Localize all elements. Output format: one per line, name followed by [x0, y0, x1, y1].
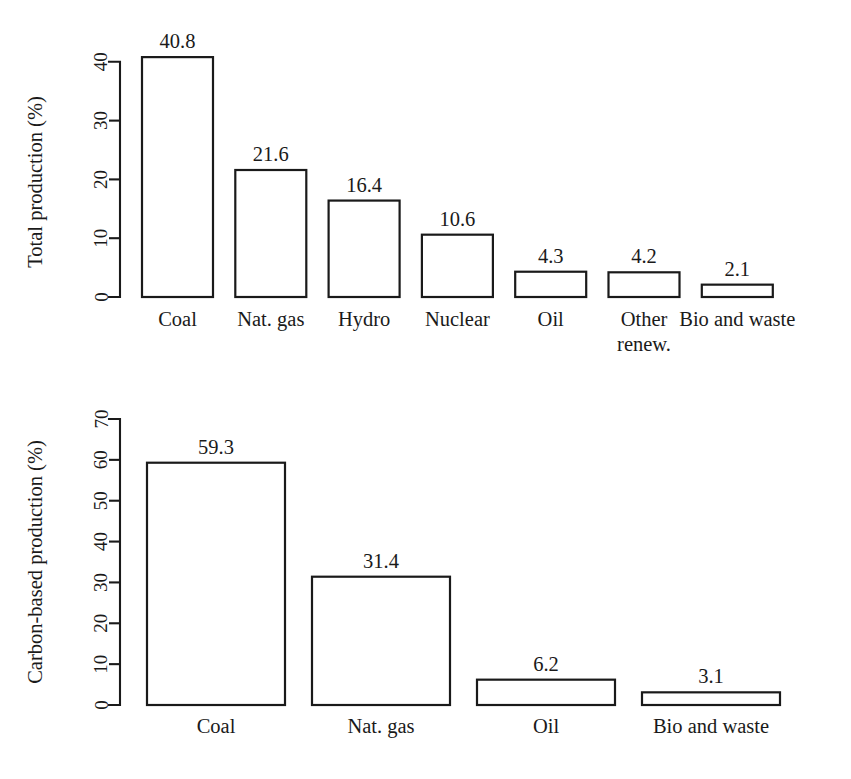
bar	[329, 201, 400, 297]
bar-value-label: 16.4	[346, 174, 382, 196]
bar	[422, 235, 493, 297]
bars-group-bottom	[147, 463, 780, 705]
y-tick-label: 30	[91, 573, 112, 592]
y-tick-label: 10	[91, 655, 112, 674]
bar-value-label: 31.4	[363, 550, 399, 572]
y-tick-label: 60	[91, 450, 112, 469]
bar	[515, 272, 586, 297]
bar-value-label: 59.3	[198, 436, 234, 458]
bar-value-label: 4.2	[631, 245, 657, 267]
y-axis-title-group-bottom: Carbon-based production (%)	[24, 440, 47, 684]
chart-carbon-based-production: Carbon-based production (%) 010203040506…	[0, 380, 851, 779]
bar-value-label: 10.6	[439, 208, 475, 230]
bar-value-label: 40.8	[160, 30, 196, 52]
y-axis-title-group-top: Total production (%)	[24, 96, 47, 268]
y-tick-label: 40	[91, 532, 112, 551]
category-label: Other	[621, 308, 668, 330]
category-label: Nat. gas	[347, 715, 414, 738]
category-label: Nat. gas	[237, 308, 304, 331]
bar	[477, 680, 615, 705]
y-axis-title-top: Total production (%)	[24, 96, 47, 268]
category-labels-top: CoalNat. gasHydroNuclearOilOtherrenew.Bi…	[158, 308, 795, 355]
category-label: Bio and waste	[679, 308, 795, 330]
category-label: renew.	[617, 333, 671, 355]
bar	[609, 272, 680, 297]
chart-total-production: Total production (%) 010203040 40.821.61…	[0, 0, 851, 380]
category-label: Oil	[538, 308, 565, 330]
category-labels-bottom: CoalNat. gasOilBio and waste	[197, 715, 769, 738]
y-tick-label: 10	[91, 229, 112, 248]
bars-group-top	[142, 57, 773, 297]
y-axis-top	[109, 62, 120, 297]
y-axis-title-bottom: Carbon-based production (%)	[24, 440, 47, 684]
y-tick-labels-top: 010203040	[91, 52, 112, 301]
figure-root: Total production (%) 010203040 40.821.61…	[0, 0, 851, 779]
bar	[235, 170, 306, 297]
category-label: Bio and waste	[653, 715, 769, 737]
bar-value-label: 21.6	[253, 143, 289, 165]
bar-value-label: 2.1	[724, 258, 750, 280]
bar-value-label: 4.3	[538, 245, 564, 267]
bar	[702, 285, 773, 297]
bar	[642, 692, 780, 705]
y-tick-label: 20	[91, 170, 112, 189]
bar-value-label: 6.2	[533, 653, 559, 675]
bar	[142, 57, 213, 297]
category-label: Nuclear	[425, 308, 490, 330]
category-label: Coal	[197, 715, 236, 737]
bar-value-label: 3.1	[698, 665, 724, 687]
y-tick-labels-bottom: 010203040506070	[91, 410, 112, 710]
category-label: Oil	[533, 715, 560, 737]
bar	[147, 463, 285, 705]
y-tick-label: 30	[91, 111, 112, 130]
y-tick-label: 50	[91, 491, 112, 510]
category-label: Hydro	[338, 308, 390, 331]
category-label: Coal	[158, 308, 197, 330]
y-tick-label: 20	[91, 614, 112, 633]
bar	[312, 577, 450, 705]
